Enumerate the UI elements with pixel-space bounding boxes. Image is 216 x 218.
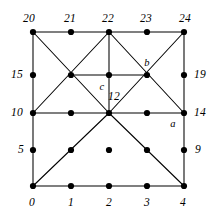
graph-vertex[interactable]	[144, 110, 150, 116]
vertex-label-2: 2	[106, 197, 112, 209]
vertex-label-22: 22	[102, 13, 114, 25]
vertex-label-5: 5	[18, 144, 24, 156]
graph-vertex[interactable]	[106, 29, 112, 35]
graph-vertex[interactable]	[30, 110, 36, 116]
vertex-label-21: 21	[64, 13, 76, 25]
vertex-label-19: 19	[194, 69, 206, 81]
graph-vertex[interactable]	[181, 29, 187, 35]
graph-vertex[interactable]	[144, 183, 150, 189]
graph-vertex[interactable]	[181, 147, 187, 153]
vertex-label-a: a	[170, 119, 175, 130]
vertex-label-1: 1	[68, 197, 74, 209]
graph-vertex[interactable]	[144, 29, 150, 35]
graph-vertex[interactable]	[68, 183, 74, 189]
graph-vertex[interactable]	[106, 72, 112, 78]
vertex-label-12: 12	[108, 91, 120, 103]
graph-vertex[interactable]	[30, 72, 36, 78]
vertex-label-14: 14	[194, 107, 206, 119]
vertex-label-24: 24	[179, 13, 191, 25]
graph-vertex[interactable]	[106, 183, 112, 189]
graph-vertex[interactable]	[68, 110, 74, 116]
vertex-label-4: 4	[180, 197, 186, 209]
vertex-label-23: 23	[140, 13, 152, 25]
graph-vertex[interactable]	[144, 147, 150, 153]
vertex-label-20: 20	[23, 13, 35, 25]
edges-group	[33, 32, 184, 186]
vertex-label-c: c	[100, 82, 105, 93]
graph-vertex[interactable]	[30, 29, 36, 35]
figure-container: 202122232415105191490123412cba	[0, 0, 216, 218]
graph-vertex[interactable]	[68, 72, 74, 78]
graph-svg	[0, 0, 216, 218]
vertex-label-b: b	[144, 58, 149, 69]
graph-vertex[interactable]	[181, 72, 187, 78]
vertex-label-10: 10	[11, 107, 23, 119]
graph-vertex[interactable]	[68, 147, 74, 153]
graph-vertex[interactable]	[68, 29, 74, 35]
graph-vertex[interactable]	[106, 147, 112, 153]
vertex-label-3: 3	[144, 197, 150, 209]
vertex-label-0: 0	[29, 197, 35, 209]
graph-vertex[interactable]	[30, 183, 36, 189]
graph-vertex[interactable]	[144, 72, 150, 78]
graph-vertex[interactable]	[181, 183, 187, 189]
graph-vertex[interactable]	[30, 147, 36, 153]
vertex-label-9: 9	[195, 144, 201, 156]
graph-vertex[interactable]	[106, 110, 112, 116]
vertex-label-15: 15	[11, 69, 23, 81]
graph-vertex[interactable]	[181, 110, 187, 116]
